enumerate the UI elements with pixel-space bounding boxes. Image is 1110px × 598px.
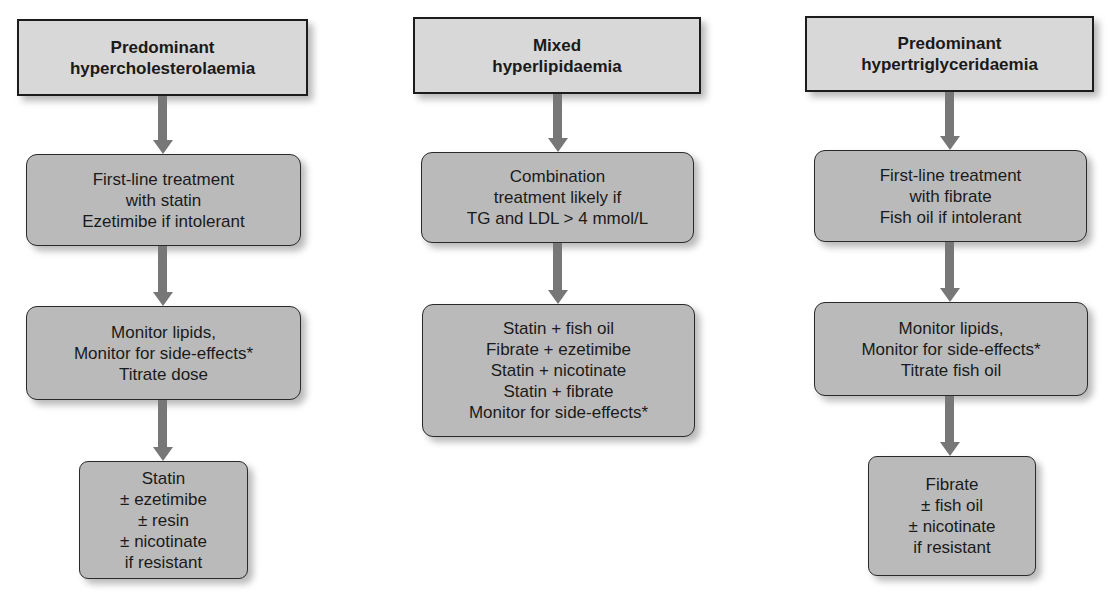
box-line: Fish oil if intolerant	[880, 207, 1022, 228]
step-first-line-fibrate: First-line treatment with fibrate Fish o…	[814, 150, 1087, 242]
box-line: Statin + nicotinate	[491, 360, 627, 381]
header-line: Mixed	[533, 35, 581, 56]
box-line: Combination	[510, 166, 605, 187]
box-line: ± ezetimibe	[120, 489, 207, 510]
box-line: Titrate dose	[119, 364, 208, 385]
box-line: Statin + fish oil	[503, 318, 614, 339]
step-combination-options: Statin + fish oil Fibrate + ezetimibe St…	[422, 304, 695, 437]
step-statin-if-resistant: Statin ± ezetimibe ± resin ± nicotinate …	[79, 461, 248, 579]
arrow-down-icon	[940, 92, 960, 150]
step-combination-treatment: Combination treatment likely if TG and L…	[421, 152, 694, 243]
box-line: Monitor for side-effects*	[74, 343, 253, 364]
step-fibrate-if-resistant: Fibrate ± fish oil ± nicotinate if resis…	[868, 456, 1036, 576]
arrow-down-icon	[548, 94, 568, 152]
box-line: with fibrate	[909, 186, 991, 207]
box-line: First-line treatment	[93, 169, 235, 190]
box-line: Ezetimibe if intolerant	[82, 211, 245, 232]
arrow-down-icon	[153, 246, 173, 306]
box-line: Monitor lipids,	[899, 318, 1004, 339]
box-line: Statin + fibrate	[503, 381, 613, 402]
step-monitor-titrate-fish-oil: Monitor lipids, Monitor for side-effects…	[814, 302, 1088, 396]
step-first-line-statin: First-line treatment with statin Ezetimi…	[26, 154, 301, 246]
header-line: hypertriglyceridaemia	[861, 54, 1038, 75]
box-line: ± nicotinate	[909, 516, 996, 537]
box-line: TG and LDL > 4 mmol/L	[467, 208, 648, 229]
header-hypertriglyceridaemia: Predominant hypertriglyceridaemia	[805, 16, 1094, 92]
box-line: treatment likely if	[494, 187, 622, 208]
header-mixed-hyperlipidaemia: Mixed hyperlipidaemia	[413, 17, 701, 94]
box-line: if resistant	[913, 537, 990, 558]
box-line: if resistant	[125, 552, 202, 573]
header-line: Predominant	[111, 37, 215, 58]
arrow-down-icon	[153, 96, 173, 154]
box-line: with statin	[126, 190, 202, 211]
arrow-down-icon	[940, 242, 960, 302]
arrow-down-icon	[548, 243, 568, 304]
arrow-down-icon	[153, 400, 173, 461]
box-line: Fibrate + ezetimibe	[486, 339, 631, 360]
box-line: Fibrate	[926, 474, 979, 495]
step-monitor-titrate-dose: Monitor lipids, Monitor for side-effects…	[26, 306, 301, 400]
box-line: Statin	[142, 468, 185, 489]
box-line: ± nicotinate	[120, 531, 207, 552]
box-line: Titrate fish oil	[901, 360, 1001, 381]
header-hypercholesterolaemia: Predominant hypercholesterolaemia	[17, 19, 308, 96]
box-line: Monitor for side-effects*	[861, 339, 1040, 360]
box-line: ± resin	[138, 510, 189, 531]
box-line: Monitor for side-effects*	[469, 402, 648, 423]
box-line: ± fish oil	[921, 495, 983, 516]
box-line: First-line treatment	[880, 165, 1022, 186]
header-line: Predominant	[898, 33, 1002, 54]
arrow-down-icon	[940, 396, 960, 456]
header-line: hyperlipidaemia	[492, 56, 621, 77]
header-line: hypercholesterolaemia	[70, 58, 255, 79]
box-line: Monitor lipids,	[111, 322, 216, 343]
